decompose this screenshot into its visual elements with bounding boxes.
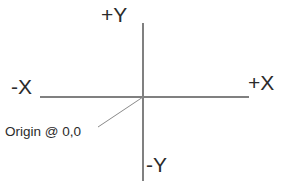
axis-label-positive-x: +X [248,72,274,93]
axes-drawing [0,0,286,183]
coordinate-axes-diagram: +Y -X +X -Y Origin @ 0,0 [0,0,286,183]
origin-leader-line [98,97,143,127]
axis-label-negative-y: -Y [146,154,167,175]
axis-label-positive-y: +Y [101,4,127,25]
axis-label-negative-x: -X [11,76,32,97]
origin-annotation-label: Origin @ 0,0 [5,124,81,140]
